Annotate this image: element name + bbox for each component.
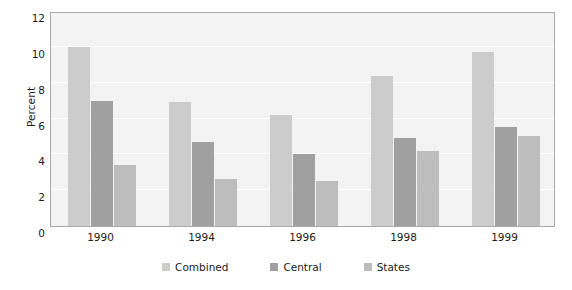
legend-swatch-icon bbox=[162, 263, 170, 271]
legend-swatch-icon bbox=[364, 263, 372, 271]
bar-states-1990 bbox=[114, 165, 136, 226]
bar-group bbox=[472, 13, 540, 226]
legend-item-combined[interactable]: Combined bbox=[162, 261, 228, 273]
bar-central-1999 bbox=[495, 127, 517, 226]
x-axis-tick-label: 1994 bbox=[188, 231, 215, 243]
bars-layer bbox=[51, 13, 554, 226]
bar-combined-1994 bbox=[169, 102, 191, 226]
bar-combined-1998 bbox=[371, 76, 393, 227]
plot-area bbox=[50, 12, 555, 227]
legend: CombinedCentralStates bbox=[0, 261, 572, 273]
y-axis-tick-labels: 024681012 bbox=[0, 12, 45, 227]
bar-states-1999 bbox=[518, 136, 540, 226]
bar-combined-1990 bbox=[68, 47, 90, 226]
x-axis-tick-labels: 19901994199619981999 bbox=[50, 231, 555, 249]
legend-item-central[interactable]: Central bbox=[270, 261, 321, 273]
bar-states-1996 bbox=[316, 181, 338, 226]
x-axis-tick-label: 1996 bbox=[289, 231, 316, 243]
bar-central-1996 bbox=[293, 154, 315, 226]
bar-combined-1999 bbox=[472, 52, 494, 226]
bar-chart: Percent 024681012 19901994199619981999 C… bbox=[0, 0, 572, 290]
bar-combined-1996 bbox=[270, 115, 292, 226]
x-axis-tick-label: 1999 bbox=[491, 231, 518, 243]
bar-central-1994 bbox=[192, 142, 214, 226]
bar-group bbox=[270, 13, 338, 226]
legend-label: Central bbox=[283, 261, 321, 273]
legend-label: Combined bbox=[175, 261, 228, 273]
legend-item-states[interactable]: States bbox=[364, 261, 410, 273]
legend-swatch-icon bbox=[270, 263, 278, 271]
x-axis-tick-label: 1990 bbox=[87, 231, 114, 243]
bar-states-1998 bbox=[417, 151, 439, 226]
bar-group bbox=[68, 13, 136, 226]
bar-states-1994 bbox=[215, 179, 237, 226]
bar-group bbox=[371, 13, 439, 226]
bar-group bbox=[169, 13, 237, 226]
bar-central-1990 bbox=[91, 101, 113, 226]
bar-central-1998 bbox=[394, 138, 416, 226]
legend-label: States bbox=[377, 261, 410, 273]
x-axis-tick-label: 1998 bbox=[390, 231, 417, 243]
